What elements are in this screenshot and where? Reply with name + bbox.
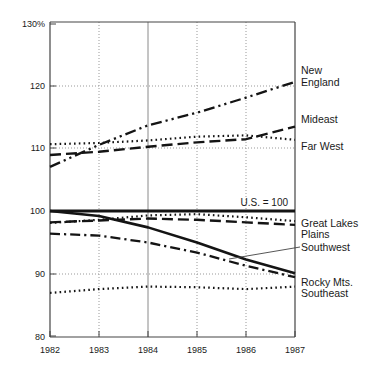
x-tick-label-1986: 1986 [236, 345, 256, 355]
y-tick-label-110: 110 [31, 143, 45, 153]
y-tick-label-90: 90 [35, 269, 45, 279]
y-tick-label-100: 100 [30, 206, 45, 216]
series-label-plains: Plains [301, 228, 330, 240]
series-label-far-west: Far West [301, 140, 343, 152]
x-tick-label-1985: 1985 [187, 345, 207, 355]
regional-income-index-chart: 130% 120 110 100 90 80 1982 1983 1984 19… [0, 0, 373, 367]
series-label-southwest: Southwest [301, 241, 350, 253]
y-tick-label-80: 80 [35, 332, 45, 342]
x-tick-label-1983: 1983 [89, 345, 109, 355]
series-label-new-england-line1: New [301, 64, 322, 76]
series-label-mideast: Mideast [301, 113, 338, 125]
series-label-southeast: Southeast [301, 287, 348, 299]
x-tick-label-1982: 1982 [40, 345, 60, 355]
y-tick-label-130: 130% [22, 19, 45, 29]
series-label-new-england-line2: England [301, 76, 340, 88]
x-tick-label-1987: 1987 [285, 345, 305, 355]
chart-background [0, 0, 373, 367]
y-tick-label-120: 120 [30, 81, 45, 91]
chart-canvas: 130% 120 110 100 90 80 1982 1983 1984 19… [0, 0, 373, 367]
us-100-annotation: U.S. = 100 [240, 197, 288, 208]
x-tick-label-1984: 1984 [138, 345, 158, 355]
